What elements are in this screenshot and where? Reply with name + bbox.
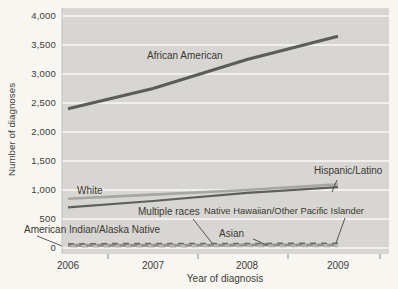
y-tick-label-2,500: 2,500	[4, 97, 56, 108]
chart-canvas	[0, 0, 398, 289]
x-tick-label-2006: 2006	[46, 260, 90, 271]
y-tick-label-2,000: 2,000	[4, 126, 56, 137]
series-label-white: White	[77, 185, 103, 196]
y-tick-label-500: 500	[4, 213, 56, 224]
x-tick-label-2009: 2009	[316, 260, 360, 271]
series-label-hispanic-latino: Hispanic/Latino	[314, 165, 382, 176]
series-label-multiple-races: Multiple races	[138, 206, 200, 217]
y-tick-label-3,000: 3,000	[4, 68, 56, 79]
x-tick-label-2008: 2008	[225, 260, 269, 271]
y-tick-label-4,000: 4,000	[4, 10, 56, 21]
y-tick-label-3,500: 3,500	[4, 39, 56, 50]
series-label-african-american: African American	[147, 50, 223, 61]
series-label-american-indian-alaska-native: American Indian/Alaska Native	[24, 224, 160, 235]
y-tick-label-1,000: 1,000	[4, 184, 56, 195]
series-label-asian: Asian	[219, 228, 244, 239]
y-tick-label-1,500: 1,500	[4, 155, 56, 166]
x-axis-ticks	[108, 254, 380, 259]
series-label-native-hawaiian-other-pacific-islander: Native Hawaiian/Other Pacific Islander	[204, 205, 364, 216]
x-tick-label-2007: 2007	[131, 260, 175, 271]
hiv-diagnoses-line-chart: Number of diagnoses Year of diagnosis 05…	[0, 0, 398, 289]
y-tick-label-0: 0	[4, 242, 56, 253]
x-axis-title: Year of diagnosis	[130, 273, 320, 284]
